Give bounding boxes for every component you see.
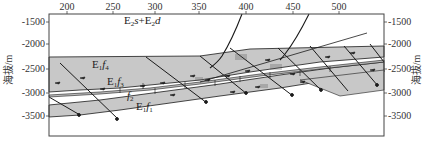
- top-tick-400: 400: [239, 1, 254, 12]
- right-tick-1500: -1500: [388, 16, 411, 27]
- left-tick-3000: -3000: [22, 87, 45, 98]
- top-tick-500: 500: [332, 1, 347, 12]
- left-axis-title: 海拔/m: [2, 55, 14, 86]
- left-tick-2000: -2000: [22, 38, 45, 49]
- top-tick-200: 200: [60, 1, 75, 12]
- top-tick-250: 250: [106, 1, 121, 12]
- right-tick-2500: -2500: [388, 63, 411, 74]
- label-e2s-e2d: E2s+E2d: [124, 14, 161, 28]
- left-tick-2500: -2500: [22, 63, 45, 74]
- left-tick-3500: -3500: [22, 110, 45, 121]
- fault-tip: [291, 94, 294, 97]
- fault-tip: [376, 84, 379, 87]
- right-tick-3000: -3000: [388, 87, 411, 98]
- cross-section-figure: 200 250 300 350 400 450 500 -1500 -2000 …: [0, 0, 427, 146]
- left-tick-1500: -1500: [22, 16, 45, 27]
- fault-tip: [320, 89, 323, 92]
- layer-bands: [49, 46, 384, 117]
- right-tick-3500: -3500: [388, 110, 411, 121]
- top-tick-450: 450: [286, 1, 301, 12]
- right-axis-labels: -1500 -2000 -2500 -3000 -3500: [388, 16, 411, 121]
- top-axis-labels: 200 250 300 350 400 450 500: [60, 1, 347, 12]
- top-tick-350: 350: [192, 1, 207, 12]
- right-tick-2000: -2000: [388, 38, 411, 49]
- cross-section-svg: 200 250 300 350 400 450 500 -1500 -2000 …: [0, 0, 427, 146]
- right-axis-title: 海拔/m: [410, 55, 422, 86]
- fault-tip: [116, 118, 119, 121]
- fault-tip: [245, 92, 248, 95]
- fault-tip: [205, 101, 208, 104]
- fault-tip: [78, 114, 81, 117]
- top-tick-300: 300: [148, 1, 163, 12]
- left-axis-labels: -1500 -2000 -2500 -3000 -3500: [22, 16, 45, 121]
